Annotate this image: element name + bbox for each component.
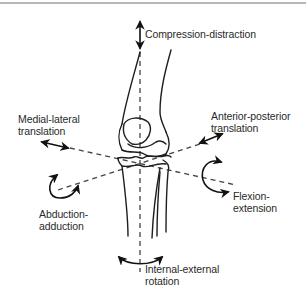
label-line: Abduction- [39, 208, 88, 220]
anterior-posterior-arrow-icon [200, 134, 222, 143]
abduction-adduction-curved-arrow-icon [50, 175, 78, 198]
label-line: translation [211, 122, 290, 134]
medial-lateral-axis-line [70, 148, 236, 185]
label-anterior-posterior-translation: Anterior-posterior translation [211, 110, 290, 134]
label-abduction-adduction: Abduction- adduction [39, 208, 88, 232]
label-line: extension [233, 202, 277, 214]
label-flexion-extension: Flexion- extension [233, 190, 277, 214]
knee-dof-diagram: Compression-distraction Medial-lateral t… [0, 0, 306, 298]
label-line: rotation [145, 275, 219, 287]
femur-illustration [119, 50, 171, 157]
medial-lateral-arrow-icon [42, 142, 68, 148]
anterior-posterior-axis-line [58, 144, 200, 190]
knee-figure-svg [0, 0, 306, 298]
label-line: Compression-distraction [145, 28, 256, 40]
label-line: Flexion- [233, 190, 277, 202]
label-line: adduction [39, 220, 88, 232]
label-line: Internal-external [145, 263, 219, 275]
flexion-extension-curved-arrow-icon [202, 161, 228, 192]
label-compression-distraction: Compression-distraction [145, 28, 256, 40]
label-line: Medial-lateral [18, 113, 80, 125]
label-line: Anterior-posterior [211, 110, 290, 122]
label-line: translation [18, 125, 80, 137]
label-medial-lateral-translation: Medial-lateral translation [18, 113, 80, 137]
tibia-fibula-illustration [118, 156, 171, 238]
label-internal-external-rotation: Internal-external rotation [145, 263, 219, 287]
